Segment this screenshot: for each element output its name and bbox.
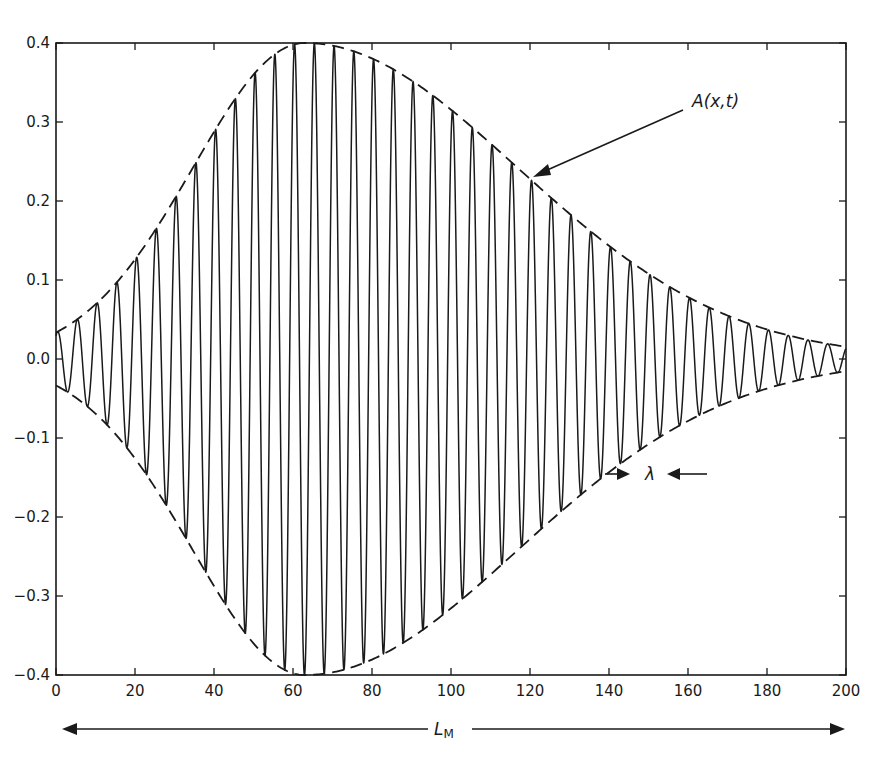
envelope-annotation: A(x,t) xyxy=(533,91,739,177)
y-tick-label: −0.2 xyxy=(14,508,50,526)
envelope-upper xyxy=(56,43,846,347)
x-tick-label: 0 xyxy=(51,682,61,700)
span-annotation: LM xyxy=(62,719,845,741)
envelope-label: A(x,t) xyxy=(691,91,739,111)
wave-packet-chart: 020406080100120140160180200 0.40.30.20.1… xyxy=(0,0,880,763)
envelope-lower xyxy=(56,371,846,675)
y-tick-label: 0.1 xyxy=(26,271,50,289)
wavelength-left-arrow-icon xyxy=(617,468,630,480)
envelope-arrow-line xyxy=(545,110,683,171)
envelope-arrow-head-icon xyxy=(533,164,551,177)
y-tick-label: −0.3 xyxy=(14,587,50,605)
wavelength-annotation: λ xyxy=(605,464,707,484)
y-tick-label: 0.2 xyxy=(26,192,50,210)
x-tick-label: 40 xyxy=(204,682,223,700)
y-tick-label: 0.0 xyxy=(26,350,50,368)
x-tick-label: 80 xyxy=(362,682,381,700)
y-tick-label: 0.4 xyxy=(26,34,50,52)
wavelength-label: λ xyxy=(644,464,655,484)
span-label-main: L xyxy=(434,719,443,739)
x-tick-label: 140 xyxy=(595,682,624,700)
x-tick-label: 160 xyxy=(674,682,703,700)
y-axis-ticks: 0.40.30.20.10.0−0.1−0.2−0.3−0.4 xyxy=(14,34,846,684)
x-tick-label: 60 xyxy=(283,682,302,700)
x-tick-label: 120 xyxy=(516,682,545,700)
y-tick-label: −0.1 xyxy=(14,429,50,447)
x-tick-label: 180 xyxy=(753,682,782,700)
span-right-arrow-icon xyxy=(830,723,845,735)
span-label: LM xyxy=(434,719,454,741)
x-tick-label: 200 xyxy=(832,682,861,700)
x-tick-label: 100 xyxy=(437,682,466,700)
x-tick-label: 20 xyxy=(125,682,144,700)
wave-line xyxy=(56,43,846,675)
y-tick-label: 0.3 xyxy=(26,113,50,131)
wave-packet-line xyxy=(56,43,846,675)
span-label-sub: M xyxy=(443,727,453,741)
span-left-arrow-icon xyxy=(62,723,77,735)
wavelength-right-arrow-icon xyxy=(667,468,680,480)
y-tick-label: −0.4 xyxy=(14,666,50,684)
x-axis-ticks: 020406080100120140160180200 xyxy=(51,43,860,700)
